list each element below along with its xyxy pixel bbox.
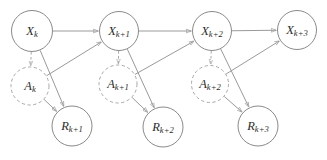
node-x_k[interactable]: Xk	[12, 11, 53, 52]
edge-a_k2-to-x_k3	[226, 41, 279, 74]
edge-a_k-to-r_k1	[44, 99, 56, 111]
edge-a_k1-to-x_k2	[135, 41, 194, 74]
node-x_k1[interactable]: Xk+1	[100, 12, 139, 51]
node-r_k3[interactable]: Rk+3	[238, 106, 278, 146]
graph-canvas: XkXk+1Xk+2Xk+3AkAk+1Ak+2Rk+1Rk+2Rk+3	[0, 0, 327, 160]
node-x_k3[interactable]: Xk+3	[278, 11, 317, 50]
graphical-model-diagram: XkXk+1Xk+2Xk+3AkAk+1Ak+2Rk+1Rk+2Rk+3	[0, 0, 327, 160]
edge-layer	[31, 30, 279, 112]
edge-a_k-to-x_k1	[47, 42, 102, 76]
edge-a_k2-to-r_k3	[224, 97, 242, 112]
node-r_k1[interactable]: Rk+1	[52, 106, 92, 146]
edge-a_k1-to-r_k2	[132, 97, 147, 112]
node-a_k1[interactable]: Ak+1	[99, 65, 137, 103]
node-x_k2[interactable]: Xk+2	[193, 12, 232, 51]
edge-x_k2-to-a_k2	[211, 51, 212, 64]
edge-x_k2-to-x_k3	[232, 30, 276, 31]
node-a_k[interactable]: Ak	[11, 67, 49, 105]
node-a_k2[interactable]: Ak+2	[192, 66, 229, 103]
node-r_k2[interactable]: Rk+2	[143, 107, 183, 147]
edge-x_k-to-a_k	[31, 52, 32, 66]
